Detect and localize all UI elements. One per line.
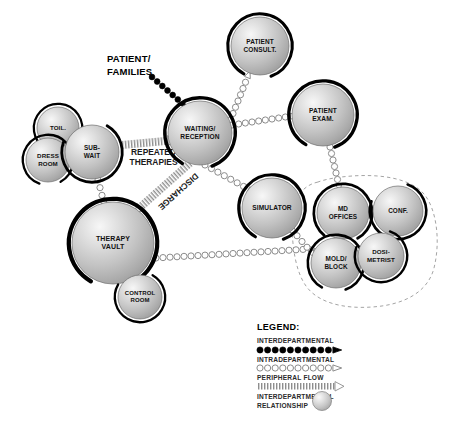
legend-chain-dot-open	[280, 365, 286, 371]
chain-dot-open	[237, 250, 243, 256]
chain-dot-open	[160, 254, 166, 260]
chain-dot-open	[272, 248, 278, 254]
patient-families-line2: FAMILIES	[107, 66, 152, 77]
chain-dot-open	[221, 173, 227, 179]
bubble-therapy-vault[interactable]: THERAPYVAULT	[69, 199, 157, 285]
chain-dot-open	[234, 180, 240, 186]
chain-dot-open	[242, 79, 248, 85]
chain-dot-open	[195, 252, 201, 258]
chain-dot-filled	[175, 97, 181, 103]
bubble-sphere[interactable]	[358, 233, 404, 279]
chain-dot-open	[328, 150, 334, 156]
legend-chain-dot-open	[325, 365, 331, 371]
chain-dot-open	[262, 117, 268, 123]
bubble-sphere[interactable]	[242, 178, 302, 238]
chain-dot-open	[167, 254, 173, 260]
legend-chain-dot-filled	[287, 347, 293, 353]
chain-dot-open	[244, 250, 250, 256]
legend-label-intradepartmental: INTRADEPARTMENTAL	[257, 356, 334, 363]
bubble-md-offices[interactable]: MDOFFICES	[314, 184, 372, 239]
chain-dot-open	[276, 115, 282, 121]
bubble-sphere[interactable]	[168, 101, 232, 165]
legend-chain-arrowhead	[333, 365, 342, 371]
legend-symbol-interdepartmental	[257, 347, 342, 353]
chain-dot-open	[242, 120, 248, 126]
bubble-sphere[interactable]	[292, 84, 354, 146]
diagram-canvas: REPEATEDTHERAPIESDISCHARGE TOIL.DRESSROO…	[0, 0, 456, 434]
chain-dot-open	[215, 169, 221, 175]
legend-chain-arrowhead	[333, 347, 342, 353]
chain-dot-open	[236, 121, 242, 127]
legend-chain-dot-filled	[325, 347, 331, 353]
bubble-sphere[interactable]	[72, 202, 154, 284]
chain-dot-open	[330, 157, 336, 163]
legend-chain-dot-open	[295, 365, 301, 371]
chain-dot-open	[251, 249, 257, 255]
patient-families-line1: PATIENT/	[107, 53, 151, 64]
bubble-patient-consult[interactable]: PATIENTCONSULT.	[228, 14, 292, 76]
chain-dot-open	[202, 252, 208, 258]
bubble-sphere[interactable]	[118, 275, 162, 319]
legend-chain-dot-filled	[272, 347, 278, 353]
chain-dot-open	[304, 244, 310, 250]
chain-dot-open	[228, 176, 234, 182]
legend-chain-dot-filled	[280, 347, 286, 353]
chain-dot-open	[334, 176, 340, 182]
legend-label-relationship-line2: RELATIONSHIP	[257, 402, 308, 409]
legend-symbol-intradepartmental	[257, 365, 342, 371]
patient-families-annotation: PATIENT/ FAMILIES	[107, 53, 152, 77]
legend-chain-dot-open	[303, 365, 309, 371]
chain-dot-open	[181, 253, 187, 259]
legend-chain-dot-open	[272, 365, 278, 371]
legend-chain-dot-open	[318, 365, 324, 371]
chain-dot-open	[299, 238, 305, 244]
chain-dot-open	[269, 116, 275, 122]
chain-dot-open	[279, 248, 285, 254]
legend-symbol-peripheral-flow	[257, 382, 344, 391]
legend-chain-dot-filled	[318, 347, 324, 353]
flow-label-repeated-therapies-2: THERAPIES	[130, 157, 178, 167]
chain-dot-open	[216, 251, 222, 257]
chain-dot-open	[256, 118, 262, 124]
bubble-sphere[interactable]	[311, 238, 361, 288]
chain-dot-filled	[170, 92, 176, 98]
chain-dot-open	[188, 253, 194, 259]
bubble-patient-exam[interactable]: PATIENTEXAM.	[289, 81, 357, 147]
legend-chain-dot-filled	[257, 347, 263, 353]
bubble-sphere[interactable]	[373, 186, 423, 236]
legend-chain-dot-open	[257, 365, 263, 371]
legend-chain-dot-open	[310, 365, 316, 371]
chain-dot-open	[235, 98, 241, 104]
legend-label-peripheral-flow: PERIPHERAL FLOW	[257, 374, 324, 381]
legend-chain-dot-filled	[295, 347, 301, 353]
legend-symbol-relationship-sphere	[313, 392, 332, 411]
bubble-conf[interactable]: CONF.	[370, 185, 426, 240]
bubble-diagram: REPEATEDTHERAPIESDISCHARGE TOIL.DRESSROO…	[0, 0, 456, 434]
chain-dot-open	[237, 92, 243, 98]
legend-chain-dot-open	[265, 365, 271, 371]
bubble-sphere[interactable]	[317, 187, 369, 239]
legend: LEGEND: INTERDEPARTMENTAL INTRADEPARTMEN…	[257, 322, 344, 411]
chain-dot-open	[293, 247, 299, 253]
legend-chain-dot-filled	[303, 347, 309, 353]
legend-title: LEGEND:	[257, 322, 300, 332]
chain-dot-open	[286, 247, 292, 253]
chain-dot-open	[331, 163, 337, 169]
chain-dot-open	[223, 251, 229, 257]
legend-chain-dot-filled	[265, 347, 271, 353]
chain-dot-open	[265, 248, 271, 254]
chain-dot-filled	[159, 83, 165, 89]
legend-chain-dot-open	[287, 365, 293, 371]
chain-dot-open	[240, 85, 246, 91]
chain-dot-filled	[165, 88, 171, 94]
bubble-sphere[interactable]	[65, 125, 119, 179]
legend-chain-dot-filled	[310, 347, 316, 353]
chain-dot-filled	[154, 79, 160, 85]
chain-dot-open	[97, 185, 103, 191]
bubble-sphere[interactable]	[231, 17, 289, 75]
chain-dot-open	[209, 252, 215, 258]
connection-therapy-to-right	[153, 246, 316, 261]
legend-label-interdepartmental: INTERDEPARTMENTAL	[257, 337, 334, 344]
bubbles-layer: TOIL.DRESSROOMSUB-WAITWAITING/RECEPTIONP…	[23, 14, 426, 322]
chain-dot-open	[249, 119, 255, 125]
